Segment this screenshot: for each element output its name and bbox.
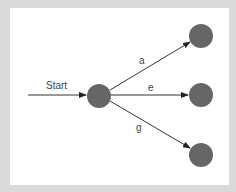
edge-label-g: g (136, 122, 142, 133)
edge-g (110, 101, 190, 148)
edge-label-e: e (148, 82, 154, 93)
state-diagram: Start a e g (0, 0, 236, 192)
node-top (189, 24, 213, 48)
node-bottom (189, 143, 213, 167)
node-middle (189, 83, 213, 107)
diagram-frame: Start a e g (0, 0, 236, 192)
node-start (87, 84, 111, 108)
edge-label-a: a (139, 55, 145, 66)
start-label: Start (46, 80, 67, 91)
